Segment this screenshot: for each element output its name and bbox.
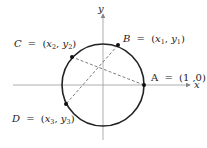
label-a: A = (1 ,0) bbox=[150, 72, 206, 83]
point-a bbox=[142, 83, 146, 87]
y-axis-label: y bbox=[97, 3, 104, 14]
point-b bbox=[116, 43, 120, 47]
unit-circle-diagram: x y A = (1 ,0) B = (x1, y1) C = (x2, y2)… bbox=[0, 0, 207, 148]
label-d: D = (x3, y3) bbox=[11, 113, 75, 126]
point-d bbox=[64, 102, 68, 106]
point-c bbox=[70, 55, 74, 59]
chord-a-c bbox=[72, 57, 144, 85]
label-c: C = (x2, y2) bbox=[14, 38, 76, 51]
chord-b-d bbox=[66, 45, 118, 104]
label-b: B = (x1, y1) bbox=[122, 33, 185, 46]
